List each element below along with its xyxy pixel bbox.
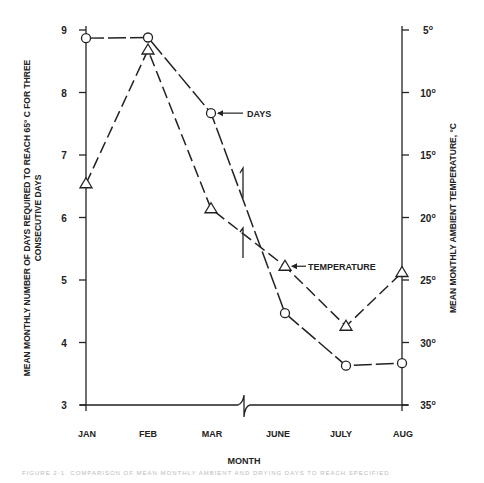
right-axis-tick-label: 10o xyxy=(420,87,435,99)
svg-text:MEAN MONTHLY NUMBER OF DAYS RE: MEAN MONTHLY NUMBER OF DAYS REQUIRED TO … xyxy=(22,59,32,376)
right-axis-tick-label: 20o xyxy=(420,212,435,224)
right-axis-title: MEAN MONTHLY AMBIENT TEMPERATURE, °C xyxy=(448,123,458,313)
days-series-line xyxy=(86,38,402,366)
right-axis-tick-label: 15o xyxy=(420,149,435,161)
temperature-triangle-marker xyxy=(396,267,408,277)
right-axis-tick-label: 5o xyxy=(423,24,433,36)
left-axis-tick-label: 7 xyxy=(61,150,67,161)
days-circle-marker xyxy=(342,361,351,370)
left-axis-tick-label: 8 xyxy=(61,88,67,99)
left-axis-tick-label: 6 xyxy=(61,213,67,224)
days-circle-marker xyxy=(281,309,290,318)
days-circle-marker xyxy=(398,359,407,368)
x-axis-tick-label: JUNE xyxy=(266,429,290,439)
svg-text:CONSECUTIVE DAYS: CONSECUTIVE DAYS xyxy=(33,174,43,261)
temperature-triangle-marker xyxy=(205,203,217,213)
arrowhead-icon xyxy=(291,263,297,269)
x-axis-tick-label: MAR xyxy=(202,429,223,439)
temperature-triangle-marker xyxy=(279,260,291,270)
right-axis-tick-label: 25o xyxy=(420,274,435,286)
temperature-triangle-marker xyxy=(142,44,154,54)
right-axis-tick-label: 30o xyxy=(420,337,435,349)
dual-axis-line-chart: 98765435o10o15o20o25o30o35oJANFEBMARJUNE… xyxy=(0,0,484,483)
x-axis-tick-label: AUG xyxy=(393,429,413,439)
x-axis-line xyxy=(80,395,408,417)
x-axis-tick-label: JULY xyxy=(330,429,352,439)
svg-text:MEAN MONTHLY AMBIENT TEMPERATU: MEAN MONTHLY AMBIENT TEMPERATURE, °C xyxy=(448,123,458,313)
temperature-series-line xyxy=(86,50,402,326)
right-axis-tick-label: 35o xyxy=(420,399,435,411)
figure-caption: FIGURE 2-1. COMPARISON OF MEAN MONTHLY A… xyxy=(22,470,390,476)
left-axis-tick-label: 3 xyxy=(61,400,67,411)
days-callout-label: DAYS xyxy=(247,109,271,119)
days-circle-marker xyxy=(207,109,216,118)
temperature-callout-label: TEMPERATURE xyxy=(308,262,376,272)
left-axis-tick-label: 9 xyxy=(61,25,67,36)
arrowhead-icon xyxy=(217,110,223,116)
left-axis-title: MEAN MONTHLY NUMBER OF DAYS REQUIRED TO … xyxy=(22,59,43,376)
left-axis-tick-label: 4 xyxy=(61,338,67,349)
left-axis-tick-label: 5 xyxy=(61,275,67,286)
x-axis-title: MONTH xyxy=(228,456,261,466)
x-axis-tick-label: FEB xyxy=(139,429,158,439)
days-circle-marker xyxy=(82,34,91,43)
series-break-mark xyxy=(240,228,243,258)
temperature-triangle-marker xyxy=(80,178,92,188)
x-axis-tick-label: JAN xyxy=(78,429,96,439)
days-circle-marker xyxy=(144,33,153,42)
